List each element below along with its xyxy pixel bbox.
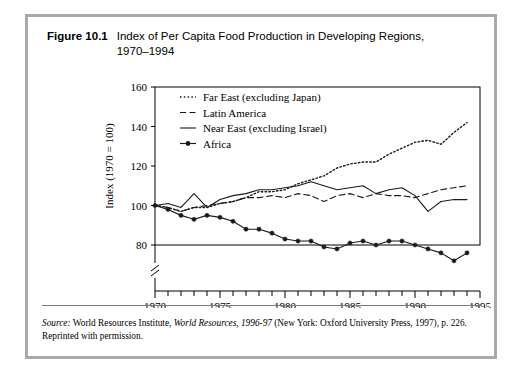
source-text-1: World Resources Institute, [71, 318, 174, 328]
series-line-3 [155, 206, 467, 261]
series-marker-3 [231, 219, 235, 223]
x-tick-label-1975: 1975 [209, 300, 232, 308]
x-tick-label-1985: 1985 [339, 300, 362, 308]
figure-title: Index of Per Capita Food Production in D… [117, 29, 447, 59]
legend-item-0: Far East (excluding Japan) [180, 91, 321, 104]
x-tick-label-1995: 1995 [469, 300, 492, 308]
legend-item-3: Africa [180, 138, 231, 150]
legend-label-1: Latin America [203, 107, 266, 119]
x-tick-label-1980: 1980 [274, 300, 297, 308]
series-line-1 [155, 186, 467, 212]
legend-item-1: Latin America [180, 107, 266, 119]
x-tick-label-1990: 1990 [404, 300, 427, 308]
y-tick-label-120: 120 [131, 160, 148, 172]
series-marker-3 [192, 217, 196, 221]
series-marker-3 [270, 231, 274, 235]
y-tick-label-160: 160 [131, 81, 148, 93]
series-marker-3 [387, 239, 391, 243]
series-marker-3 [296, 239, 300, 243]
source-publication: World Resources, 1996-97 [174, 318, 272, 328]
series-marker-3 [335, 247, 339, 251]
y-tick-label-100: 100 [131, 200, 148, 212]
series-marker-3 [348, 241, 352, 245]
series-marker-3 [244, 227, 248, 231]
legend-marker-3 [186, 141, 191, 146]
series-marker-3 [179, 213, 183, 217]
y-tick-label-140: 140 [131, 121, 148, 133]
legend-label-0: Far East (excluding Japan) [203, 91, 321, 104]
legend-label-3: Africa [203, 138, 231, 150]
figure-header: Figure 10.1 Index of Per Capita Food Pro… [47, 29, 467, 59]
y-axis-title: Index (1970 = 100) [103, 123, 116, 209]
footer-divider [42, 305, 480, 306]
axis-break-mark-lower [151, 270, 159, 276]
series-marker-3 [166, 207, 170, 211]
series-marker-3 [374, 243, 378, 247]
source-note: Source: World Resources Institute, World… [42, 317, 482, 342]
chart-canvas: 80100120140160197019751980198519901995Ye… [28, 63, 494, 308]
series-marker-3 [452, 259, 456, 263]
figure-number: Figure 10.1 [47, 29, 108, 44]
figure-container: Figure 10.1 Index of Per Capita Food Pro… [25, 14, 497, 359]
series-marker-3 [309, 239, 313, 243]
line-chart: 80100120140160197019751980198519901995Ye… [28, 63, 494, 308]
series-marker-3 [322, 245, 326, 249]
series-marker-3 [465, 251, 469, 255]
series-line-0 [155, 123, 467, 212]
x-tick-label-1970: 1970 [144, 300, 167, 308]
series-marker-3 [257, 227, 261, 231]
series-marker-3 [283, 237, 287, 241]
y-tick-label-80: 80 [136, 239, 148, 251]
series-marker-3 [400, 239, 404, 243]
axis-break-mark-upper [151, 265, 159, 271]
series-marker-3 [218, 215, 222, 219]
series-marker-3 [153, 203, 157, 207]
series-line-2 [155, 182, 467, 212]
source-label: Source: [42, 318, 71, 328]
series-marker-3 [361, 239, 365, 243]
series-marker-3 [205, 213, 209, 217]
legend-label-2: Near East (excluding Israel) [203, 122, 327, 135]
series-marker-3 [439, 251, 443, 255]
legend-item-2: Near East (excluding Israel) [180, 122, 327, 135]
series-marker-3 [413, 243, 417, 247]
series-marker-3 [426, 247, 430, 251]
